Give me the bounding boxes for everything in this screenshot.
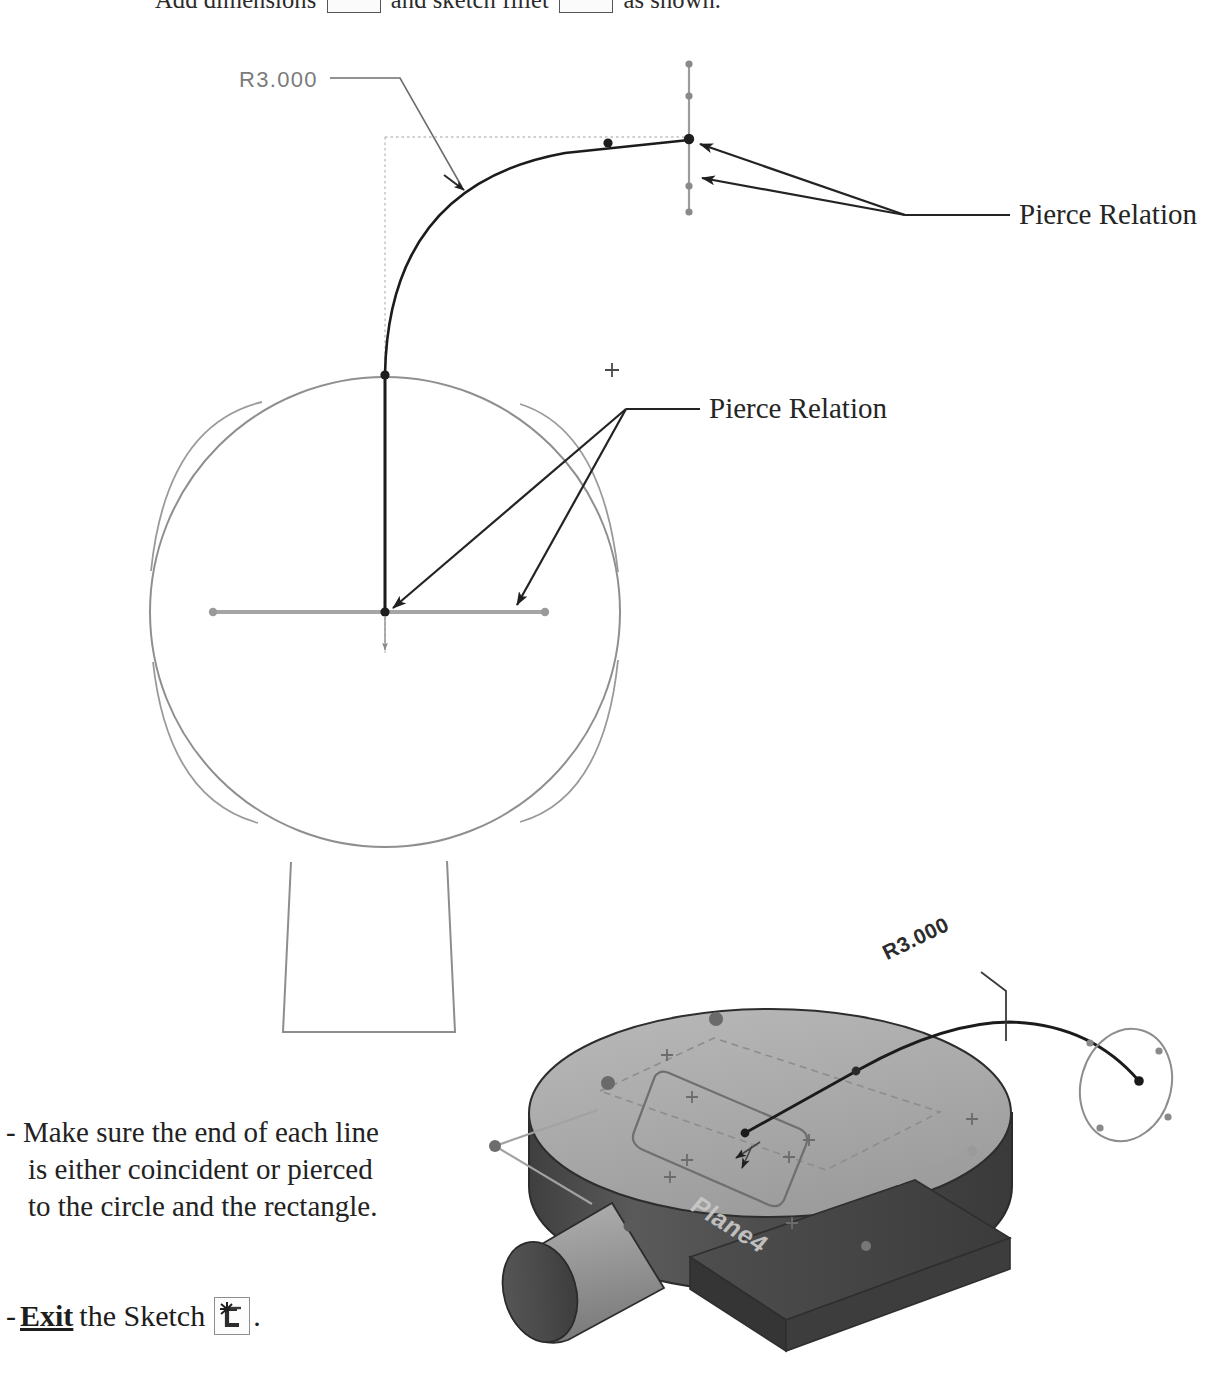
pierce-relation-label-middle: Pierce Relation bbox=[709, 394, 887, 423]
pierce-top-arrow-2 bbox=[702, 178, 905, 215]
note-bullet: - bbox=[6, 1116, 16, 1148]
note-line-1: - Make sure the end of each line bbox=[6, 1114, 426, 1151]
exit-sketch-step: - Exit the Sketch . bbox=[6, 1297, 436, 1335]
pierce-relation-label-top: Pierce Relation bbox=[1019, 200, 1197, 229]
radius-leader-arrow bbox=[444, 175, 464, 190]
note-line-2: is either coincident or pierced bbox=[6, 1151, 426, 1188]
model-radius-leader-line bbox=[981, 972, 1006, 1041]
coincident-pierce-note: - Make sure the end of each line is eith… bbox=[6, 1114, 426, 1225]
sketch-arc-fillet bbox=[385, 140, 689, 612]
arc-tangent-point bbox=[603, 138, 612, 147]
ellipse-point-d bbox=[1096, 1124, 1103, 1131]
centerline-midpoint-upper bbox=[685, 92, 692, 99]
centerline-midpoint-lower bbox=[685, 182, 692, 189]
base-block-point bbox=[861, 1241, 871, 1251]
side-face-point bbox=[624, 1221, 635, 1232]
model-arc-end-point bbox=[1134, 1076, 1144, 1086]
ellipse-point-c bbox=[1164, 1113, 1171, 1120]
model-arc-mid-point bbox=[852, 1067, 861, 1076]
pierce-top-arrow-1 bbox=[700, 144, 905, 215]
silhouette-arc-upper-left bbox=[151, 402, 262, 571]
sketch-origin-point bbox=[380, 607, 389, 616]
arc-lower-endpoint bbox=[380, 370, 389, 379]
exit-sketch-icon[interactable] bbox=[214, 1297, 250, 1335]
arc-upper-endpoint bbox=[684, 134, 694, 144]
note-line-3: to the circle and the rectangle. bbox=[6, 1188, 426, 1225]
model-3d-group bbox=[489, 972, 1185, 1351]
boss-silhouette-outline bbox=[283, 861, 455, 1032]
ellipse-point-a bbox=[1086, 1039, 1093, 1046]
top-face-point-2 bbox=[601, 1076, 615, 1090]
sketch-2d-group bbox=[150, 60, 1010, 1032]
radius-leader-line bbox=[330, 78, 462, 187]
horizontal-line-endpoint-left bbox=[209, 608, 217, 616]
pierce-mid-arrow-1 bbox=[393, 409, 626, 608]
note-text-1: Make sure the end of each line bbox=[23, 1116, 379, 1148]
silhouette-arc-lower-right bbox=[520, 660, 618, 822]
left-construction-endpoint bbox=[489, 1140, 501, 1152]
exit-object-label: the Sketch bbox=[79, 1298, 205, 1334]
exit-action-label[interactable]: Exit bbox=[20, 1298, 73, 1334]
horizontal-line-endpoint-right bbox=[541, 608, 549, 616]
centerline-endpoint-bottom bbox=[685, 208, 692, 215]
model-arc-start-point bbox=[741, 1129, 750, 1138]
ellipse-point-b bbox=[1155, 1047, 1162, 1054]
radius-dimension-label-2d[interactable]: R3.000 bbox=[239, 67, 318, 93]
top-face-point-1 bbox=[709, 1012, 723, 1026]
exit-trailing-punctuation: . bbox=[253, 1298, 261, 1334]
exit-bullet: - bbox=[6, 1298, 16, 1334]
sketch-point-crosshair bbox=[605, 363, 619, 377]
centerline-endpoint-top bbox=[685, 60, 692, 67]
